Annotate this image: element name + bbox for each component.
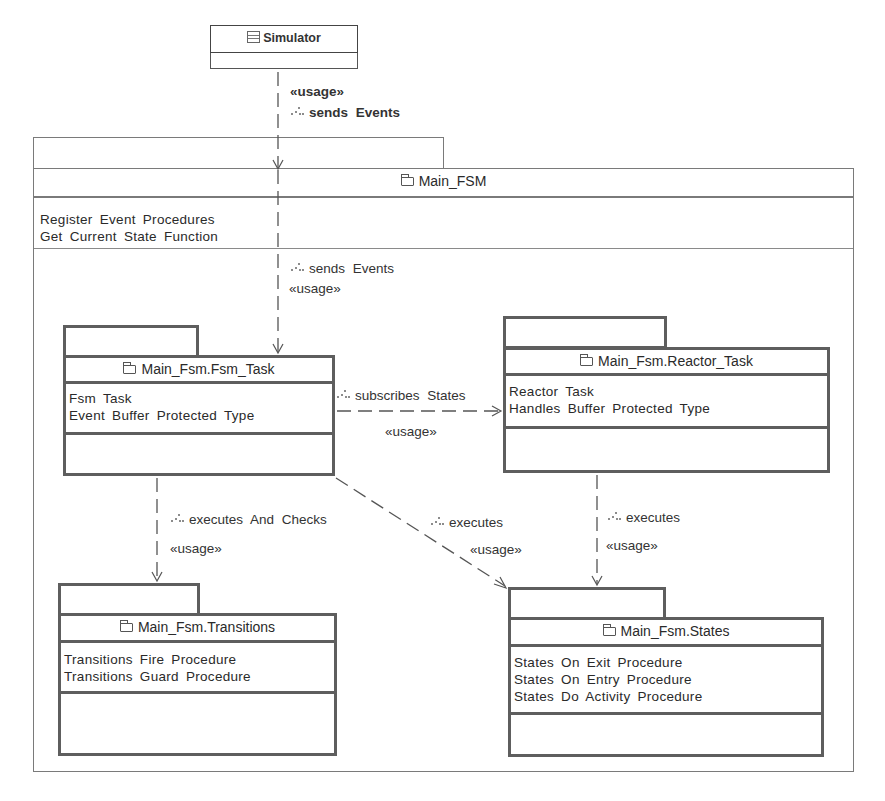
edge-stereotype: «usage» <box>289 281 341 296</box>
edge-stereotype: «usage» <box>470 542 522 557</box>
edge-label: sends Events <box>290 105 400 120</box>
edge-label: subscribes States <box>336 388 466 403</box>
dependency-icon <box>607 511 623 521</box>
edge-stereotype: «usage» <box>606 538 658 553</box>
edge-fsm-to-states <box>336 478 505 586</box>
edge-label: executes <box>430 515 503 530</box>
dependency-icon <box>290 262 306 272</box>
dependency-icon <box>170 513 186 523</box>
edge-label: executes And Checks <box>170 512 327 527</box>
edge-stereotype: «usage» <box>170 541 222 556</box>
dependency-icon <box>430 516 446 526</box>
dependency-icon <box>290 106 306 116</box>
edge-label: executes <box>607 510 680 525</box>
edge-stereotype: «usage» <box>290 84 344 99</box>
edge-label: sends Events <box>290 261 394 276</box>
dependency-icon <box>336 389 352 399</box>
edge-stereotype: «usage» <box>385 424 437 439</box>
